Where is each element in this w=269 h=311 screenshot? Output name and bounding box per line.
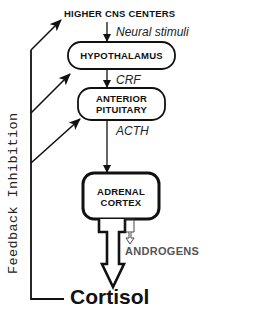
adrenal-cortex-line2: CORTEX bbox=[83, 197, 159, 208]
feedback-arrow-to-hypothalamus bbox=[31, 74, 70, 113]
cortisol-output-arrow bbox=[99, 219, 125, 287]
androgens-label: ANDROGENS bbox=[125, 245, 199, 257]
feedback-inhibition-label: Feedback Inhibition bbox=[6, 112, 21, 274]
diagram-graphics bbox=[0, 0, 269, 311]
crf-label: CRF bbox=[116, 73, 141, 87]
feedback-arrow-to-cns bbox=[31, 20, 61, 50]
androgens-small-arrow bbox=[126, 232, 134, 244]
neural-stimuli-label: Neural stimuli bbox=[116, 25, 189, 39]
anterior-pituitary-line1: ANTERIOR bbox=[78, 93, 165, 104]
anterior-pituitary-line2: PITUITARY bbox=[78, 104, 165, 115]
adrenal-cortex-label: ADRENAL CORTEX bbox=[83, 186, 159, 208]
androgens-branch-box bbox=[125, 219, 134, 232]
acth-label: ACTH bbox=[116, 124, 149, 138]
higher-cns-centers-label: HIGHER CNS CENTERS bbox=[64, 8, 175, 19]
hypothalamus-label: HYPOTHALAMUS bbox=[68, 50, 175, 61]
anterior-pituitary-label: ANTERIOR PITUITARY bbox=[78, 93, 165, 115]
hpa-axis-diagram: HIGHER CNS CENTERS Neural stimuli HYPOTH… bbox=[0, 0, 269, 311]
cortisol-label: Cortisol bbox=[70, 285, 149, 309]
feedback-line bbox=[31, 50, 64, 299]
adrenal-cortex-line1: ADRENAL bbox=[83, 186, 159, 197]
feedback-arrow-to-pituitary bbox=[31, 119, 80, 163]
